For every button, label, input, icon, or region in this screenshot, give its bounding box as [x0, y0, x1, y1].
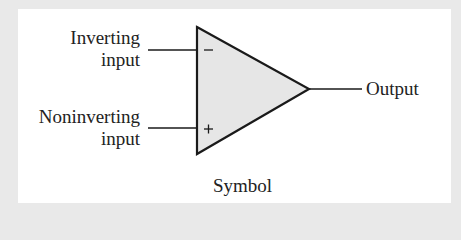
- inverting-input-label-line2: input: [70, 49, 140, 71]
- inverting-input-label: Inverting input: [70, 27, 140, 71]
- inverting-input-label-line1: Inverting: [70, 27, 140, 49]
- noninverting-input-label-line1: Noninverting: [39, 106, 140, 128]
- op-amp-triangle-icon: [197, 27, 309, 154]
- noninverting-input-label-line2: input: [39, 128, 140, 150]
- figure-caption: Symbol: [213, 175, 272, 197]
- noninverting-input-label: Noninverting input: [39, 106, 140, 150]
- output-label: Output: [366, 78, 419, 100]
